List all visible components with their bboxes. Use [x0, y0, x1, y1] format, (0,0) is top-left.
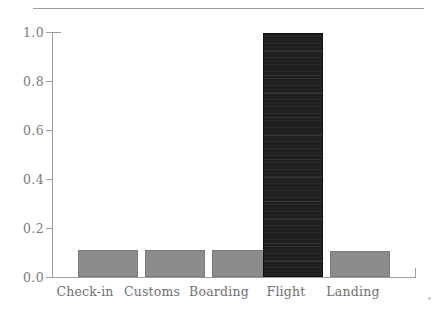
- x-axis-label-boarding: Boarding: [182, 286, 256, 299]
- x-axis-label-flight: Flight: [249, 286, 323, 299]
- y-tick-mark-1.0: [46, 32, 53, 33]
- y-tick-mark-0.8: [46, 81, 53, 82]
- bar-landing[interactable]: [330, 251, 390, 277]
- y-tick-mark-0.2: [46, 228, 53, 229]
- x-axis-label-landing: Landing: [316, 286, 390, 299]
- plot-area: [53, 33, 416, 277]
- y-tick-mark-0.4: [46, 179, 53, 180]
- x-axis-label-customs: Customs: [115, 286, 189, 299]
- y-axis-tick-label: 0.4: [8, 174, 44, 187]
- bar-flight[interactable]: [263, 33, 323, 277]
- y-tick-mark-0.0: [46, 277, 53, 278]
- y-axis-tick-label: 0.8: [8, 76, 44, 89]
- y-axis-tick-label: 0.2: [8, 223, 44, 236]
- x-axis-label-check-in: Check-in: [48, 286, 122, 299]
- x-axis-spine: [52, 277, 416, 278]
- y-axis-tick-label: 1.0: [8, 27, 44, 40]
- y-axis-tick-label: 0.0: [8, 272, 44, 285]
- bar-check-in[interactable]: [78, 250, 138, 277]
- bar-chart-figure: 1.0 0.8 0.6 0.4 0.2 0.0 Check-in Customs…: [0, 0, 436, 311]
- y-tick-mark-0.6: [46, 130, 53, 131]
- y-axis-tick-label: 0.6: [8, 125, 44, 138]
- bar-customs[interactable]: [145, 250, 205, 277]
- corner-artifact-mark: [428, 297, 431, 300]
